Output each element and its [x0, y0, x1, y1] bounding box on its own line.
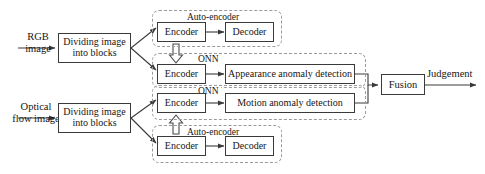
group-label-auto-encoder-top: Auto-encoder [185, 13, 241, 23]
input-label-optical-line1: Optical [10, 101, 62, 113]
dividing-bottom-line2: into blocks [72, 118, 116, 129]
dividing-image-into-blocks-bottom[interactable]: Dividing image into blocks [58, 103, 131, 133]
motion-anomaly-detection[interactable]: Motion anomaly detection [225, 93, 355, 113]
input-label-optical-line2: flow image [10, 113, 62, 125]
fusion-box[interactable]: Fusion [381, 74, 425, 95]
decoder-auto-encoder-bottom[interactable]: Decoder [225, 136, 274, 156]
encoder-onn-top[interactable]: Encoder [157, 64, 206, 84]
encoder-auto-encoder-top[interactable]: Encoder [157, 22, 206, 42]
appearance-anomaly-detection[interactable]: Appearance anomaly detection [225, 64, 355, 84]
encoder-onn-bottom[interactable]: Encoder [157, 93, 206, 113]
input-label-rgb: RGB image [18, 31, 58, 54]
decoder-auto-encoder-top[interactable]: Decoder [225, 22, 274, 42]
input-label-rgb-line2: image [18, 43, 58, 55]
encoder-auto-encoder-bottom[interactable]: Encoder [157, 136, 206, 156]
input-label-rgb-line1: RGB [18, 31, 58, 43]
dividing-image-into-blocks-top[interactable]: Dividing image into blocks [58, 33, 131, 63]
input-label-optical-flow: Optical flow image [10, 101, 62, 124]
pipeline-diagram: Auto-encoder ONN ONN Auto-encoder RGB im… [0, 0, 485, 174]
judgement-label: Judgement [427, 68, 473, 80]
dividing-top-line2: into blocks [72, 48, 116, 59]
